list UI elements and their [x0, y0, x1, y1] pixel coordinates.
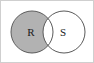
set-label-s: S [60, 26, 66, 38]
venn-diagram-figure: R S [0, 0, 94, 63]
venn-diagram-canvas: R S [1, 1, 94, 63]
set-label-r: R [27, 26, 35, 38]
